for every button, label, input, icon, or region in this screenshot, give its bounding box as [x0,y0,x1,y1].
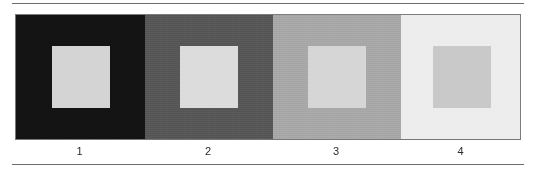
panel-1[interactable] [16,15,145,139]
inner-square-1 [52,46,110,108]
inner-square-2 [180,46,238,108]
panel-strip [15,14,521,140]
figure-root: 1 2 3 4 [0,0,538,171]
panel-label-3: 3 [272,145,400,159]
top-rule [12,3,524,4]
bottom-rule [12,164,524,165]
inner-square-4 [433,46,491,108]
inner-square-3 [308,46,366,108]
panel-3[interactable] [273,15,401,139]
panel-label-row: 1 2 3 4 [15,145,521,159]
panel-label-4: 4 [400,145,521,159]
panel-4[interactable] [401,15,521,139]
panel-label-2: 2 [144,145,272,159]
panel-label-1: 1 [15,145,144,159]
panel-2[interactable] [145,15,273,139]
